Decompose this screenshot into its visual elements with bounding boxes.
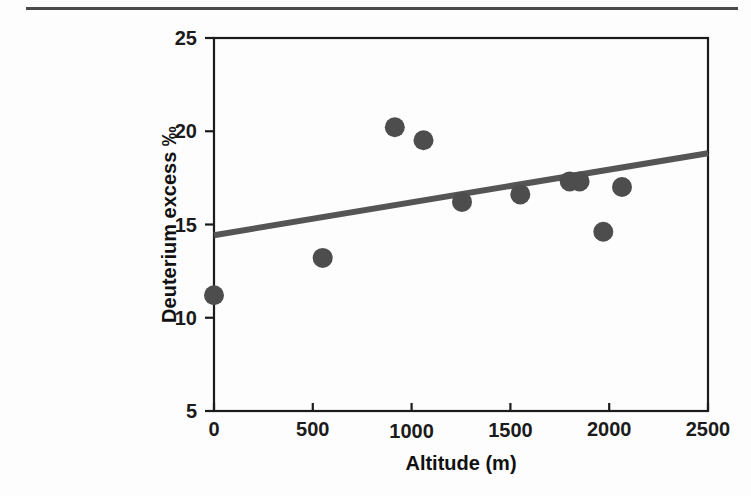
y-axis-ticks [205, 38, 214, 411]
data-point [510, 184, 530, 204]
y-tick-label: 25 [175, 27, 197, 49]
x-tick-label: 2500 [686, 418, 731, 440]
figure-page: 0 500 1000 1500 2000 2500 5 10 15 20 25 … [0, 0, 751, 496]
x-tick-label: 500 [296, 418, 329, 440]
x-tick-label: 2000 [587, 418, 632, 440]
data-point [204, 285, 224, 305]
data-point [612, 177, 632, 197]
data-point [313, 248, 333, 268]
x-axis-tick-labels: 0 500 1000 1500 2000 2500 [208, 418, 730, 442]
x-axis-title: Altitude (m) [405, 452, 516, 474]
chart-svg: 0 500 1000 1500 2000 2500 5 10 15 20 25 … [0, 0, 751, 496]
data-point [593, 222, 613, 242]
data-point [570, 171, 590, 191]
x-axis-ticks [214, 403, 708, 411]
x-tick-label: 1500 [488, 419, 533, 441]
data-point [414, 130, 434, 150]
x-tick-label: 0 [208, 418, 219, 440]
data-points [204, 117, 632, 305]
data-point [452, 192, 472, 212]
x-tick-label: 1000 [389, 420, 434, 442]
y-tick-label: 5 [186, 400, 197, 422]
scatter-chart: 0 500 1000 1500 2000 2500 5 10 15 20 25 … [0, 0, 751, 496]
data-point [385, 117, 405, 137]
y-axis-title: Deuterium excess ‰ [158, 126, 180, 323]
